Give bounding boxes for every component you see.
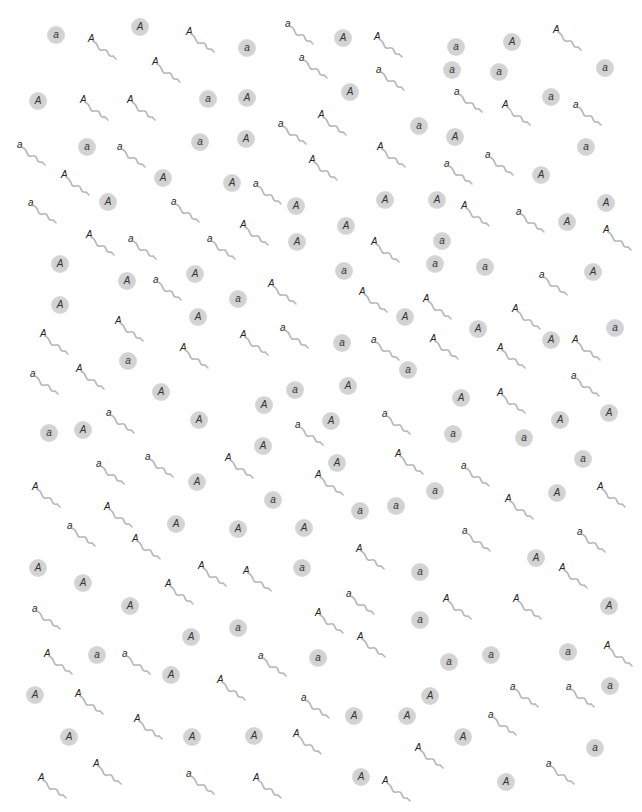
sperm-recessive: a (153, 275, 185, 301)
egg-dominant: A (238, 89, 256, 107)
sperm-dominant: A (165, 579, 197, 605)
sperm-tail-icon (501, 348, 527, 370)
sperm-recessive: a (571, 371, 603, 397)
sperm-dominant: A (180, 343, 212, 369)
sperm-tail-icon (489, 155, 515, 177)
egg-dominant: A (162, 666, 180, 684)
allele-label: A (345, 381, 352, 391)
allele-label: a (197, 137, 203, 147)
egg-dominant: A (190, 411, 208, 429)
egg-dominant: A (74, 421, 92, 439)
sperm-recessive: a (454, 87, 486, 113)
egg-recessive: a (515, 429, 533, 447)
egg-dominant: A (186, 265, 204, 283)
sperm-tail-icon (138, 719, 164, 741)
egg-dominant: A (237, 130, 255, 148)
egg-recessive: a (577, 138, 595, 156)
sperm-tail-icon (97, 764, 123, 786)
sperm-tail-icon (289, 24, 315, 46)
sperm-recessive: a (106, 408, 138, 434)
sperm-dominant: A (88, 34, 120, 60)
sperm-tail-icon (492, 715, 518, 737)
sperm-tail-icon (458, 92, 484, 114)
sperm-recessive: a (186, 769, 218, 795)
egg-dominant: A (188, 473, 206, 491)
allele-label: A (35, 96, 42, 106)
sperm-recessive: a (577, 527, 609, 553)
sperm-dominant: A (318, 110, 350, 136)
sperm-tail-icon (570, 687, 596, 709)
egg-dominant: A (446, 128, 464, 146)
sperm-dominant: A (38, 773, 70, 799)
allele-label: a (488, 650, 494, 660)
egg-recessive: a (238, 39, 256, 57)
egg-recessive: a (447, 38, 465, 56)
sperm-tail-icon (119, 321, 145, 343)
allele-label: A (434, 195, 441, 205)
allele-label: A (251, 731, 258, 741)
egg-dominant: A (51, 296, 69, 314)
egg-recessive: a (426, 255, 444, 273)
egg-dominant: A (558, 213, 576, 231)
sperm-dominant: A (86, 230, 118, 256)
sperm-tail-icon (36, 609, 62, 631)
sperm-dominant: A (443, 594, 475, 620)
sperm-tail-icon (184, 348, 210, 370)
sperm-dominant: A (44, 649, 76, 675)
allele-label: a (244, 43, 250, 53)
sperm-tail-icon (32, 203, 58, 225)
sperm-tail-icon (305, 698, 331, 720)
egg-recessive: a (596, 59, 614, 77)
sperm-tail-icon (380, 70, 406, 92)
sperm-dominant: A (430, 334, 462, 360)
gamete-scatter-diagram: aAaAaAaaaAAaAaaAaaAaAAAAAAAAAAAaAaaaAAAa… (0, 0, 642, 812)
egg-recessive: a (444, 425, 462, 443)
egg-dominant: A (341, 83, 359, 101)
sperm-dominant: A (132, 534, 164, 560)
sperm-recessive: a (145, 452, 177, 478)
allele-label: A (173, 519, 180, 529)
allele-label: a (612, 323, 618, 333)
sperm-dominant: A (76, 364, 108, 390)
sperm-tail-icon (506, 105, 532, 127)
sperm-dominant: A (217, 675, 249, 701)
sperm-dominant: A (225, 453, 257, 479)
sperm-recessive: a (96, 459, 128, 485)
sperm-dominant: A (497, 388, 529, 414)
egg-dominant: A (469, 320, 487, 338)
allele-label: A (301, 523, 308, 533)
allele-label: a (416, 121, 422, 131)
sperm-tail-icon (575, 376, 601, 398)
sperm-dominant: A (315, 470, 347, 496)
allele-label: A (124, 276, 131, 286)
egg-recessive: a (191, 133, 209, 151)
egg-recessive: a (559, 643, 577, 661)
allele-label: A (404, 711, 411, 721)
sperm-dominant: A (315, 608, 347, 634)
allele-label: a (341, 266, 347, 276)
allele-label: A (538, 170, 545, 180)
allele-label: A (105, 197, 112, 207)
egg-recessive: a (574, 450, 592, 468)
egg-dominant: A (334, 29, 352, 47)
sperm-recessive: a (573, 100, 605, 126)
sperm-recessive: a (546, 759, 578, 785)
allele-label: A (606, 408, 613, 418)
allele-label: a (439, 236, 445, 246)
sperm-dominant: A (243, 566, 275, 592)
sperm-tail-icon (363, 292, 389, 314)
allele-label: A (334, 458, 341, 468)
sperm-tail-icon (84, 100, 110, 122)
sperm-dominant: A (93, 759, 125, 785)
sperm-dominant: A (240, 330, 272, 356)
sperm-dominant: A (505, 494, 537, 520)
sperm-tail-icon (34, 374, 60, 396)
allele-label: A (260, 441, 267, 451)
allele-label: A (340, 33, 347, 43)
allele-label: A (127, 601, 134, 611)
sperm-recessive: a (128, 234, 160, 260)
sperm-tail-icon (465, 466, 491, 488)
allele-label: A (293, 201, 300, 211)
egg-dominant: A (532, 166, 550, 184)
egg-dominant: A (288, 233, 306, 251)
